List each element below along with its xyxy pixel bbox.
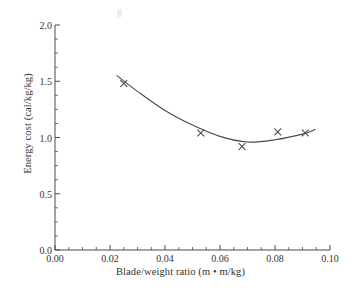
chart-figure: Energy cost (cal/kg/kg) Blade/weight rat…: [0, 0, 361, 290]
data-point-3: [274, 128, 281, 135]
trend-curve: [117, 76, 315, 142]
data-point-2: [239, 143, 246, 150]
data-point-1: [197, 130, 204, 137]
fit-curve-path: [117, 76, 315, 142]
plot-area: [0, 0, 361, 290]
